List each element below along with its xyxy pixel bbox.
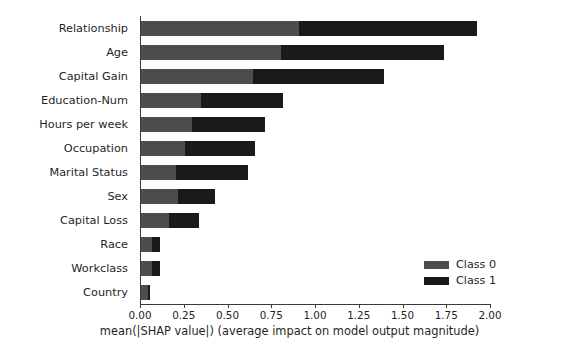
- bar-segment-class-1: [178, 189, 215, 204]
- bar-segment-class-1: [176, 165, 248, 180]
- bar-segment-class-1: [201, 93, 283, 108]
- legend-swatch-icon: [424, 277, 449, 285]
- bar-row: [141, 45, 444, 60]
- bar-segment-class-1: [152, 237, 161, 252]
- legend-item[interactable]: Class 0: [424, 258, 496, 271]
- bar-segment-class-0: [141, 117, 192, 132]
- legend-item[interactable]: Class 1: [424, 274, 496, 287]
- x-axis-tick-mark: [140, 304, 141, 308]
- x-axis-tick-label: 1.50: [391, 309, 414, 321]
- x-axis-tick-label: 1.00: [303, 309, 326, 321]
- bar-segment-class-0: [141, 237, 152, 252]
- x-axis-tick-label: 0.00: [128, 309, 151, 321]
- bar-segment-class-1: [192, 117, 266, 132]
- legend-swatch-icon: [424, 261, 449, 269]
- bar-segment-class-0: [141, 21, 299, 36]
- y-axis-tick-label: Age: [106, 45, 128, 60]
- y-axis-tick-label: Education-Num: [41, 93, 128, 108]
- y-axis-tick-label: Workclass: [71, 261, 128, 276]
- bar-segment-class-1: [253, 69, 384, 84]
- y-axis-tick-label: Sex: [107, 189, 128, 204]
- y-axis-tick-label: Relationship: [59, 21, 128, 36]
- bar-segment-class-0: [141, 69, 253, 84]
- bar-row: [141, 213, 199, 228]
- x-axis-tick-label: 0.75: [260, 309, 283, 321]
- x-axis-tick-mark: [446, 304, 447, 308]
- bar-segment-class-0: [141, 261, 152, 276]
- bar-segment-class-0: [141, 93, 201, 108]
- x-axis-tick-mark: [228, 304, 229, 308]
- bar-segment-class-0: [141, 189, 178, 204]
- bar-segment-class-1: [148, 285, 150, 300]
- x-axis-tick-label: 0.50: [216, 309, 239, 321]
- bar-row: [141, 237, 160, 252]
- x-axis-tick-label: 1.25: [347, 309, 370, 321]
- bar-row: [141, 261, 160, 276]
- x-axis-tick-label: 0.25: [172, 309, 195, 321]
- x-axis-tick-mark: [184, 304, 185, 308]
- bar-segment-class-0: [141, 141, 185, 156]
- x-axis-tick-mark: [403, 304, 404, 308]
- legend-label: Class 0: [456, 258, 496, 271]
- x-axis-tick-mark: [315, 304, 316, 308]
- y-axis-tick-labels: RelationshipAgeCapital GainEducation-Num…: [0, 16, 134, 304]
- x-axis-tick-mark: [359, 304, 360, 308]
- bar-row: [141, 165, 248, 180]
- x-axis-title: mean(|SHAP value|) (average impact on mo…: [0, 324, 579, 338]
- y-axis-tick-label: Capital Gain: [59, 69, 128, 84]
- bar-row: [141, 117, 265, 132]
- bar-segment-class-1: [169, 213, 199, 228]
- bar-row: [141, 69, 384, 84]
- y-axis-tick-label: Hours per week: [39, 117, 128, 132]
- bar-row: [141, 285, 150, 300]
- x-axis-ticks: 0.000.250.500.751.001.251.501.752.00: [140, 304, 490, 326]
- bar-segment-class-1: [281, 45, 444, 60]
- legend-label: Class 1: [456, 274, 496, 287]
- x-axis-tick-label: 2.00: [478, 309, 501, 321]
- bar-row: [141, 21, 477, 36]
- bar-segment-class-1: [185, 141, 255, 156]
- bar-segment-class-0: [141, 165, 176, 180]
- y-axis-tick-label: Race: [100, 237, 128, 252]
- y-axis-tick-label: Marital Status: [49, 165, 128, 180]
- bar-row: [141, 93, 283, 108]
- x-axis-tick-mark: [271, 304, 272, 308]
- bar-segment-class-1: [152, 261, 161, 276]
- y-axis-tick-label: Country: [83, 285, 128, 300]
- x-axis-tick-label: 1.75: [435, 309, 458, 321]
- bar-segment-class-0: [141, 285, 148, 300]
- bar-segment-class-0: [141, 45, 281, 60]
- bar-row: [141, 189, 215, 204]
- shap-summary-bar-chart: RelationshipAgeCapital GainEducation-Num…: [0, 0, 579, 358]
- bar-segment-class-0: [141, 213, 169, 228]
- y-axis-tick-label: Capital Loss: [60, 213, 128, 228]
- x-axis-tick-mark: [490, 304, 491, 308]
- bar-row: [141, 141, 255, 156]
- chart-legend: Class 0Class 1: [424, 258, 496, 287]
- bar-segment-class-1: [299, 21, 478, 36]
- y-axis-tick-label: Occupation: [64, 141, 128, 156]
